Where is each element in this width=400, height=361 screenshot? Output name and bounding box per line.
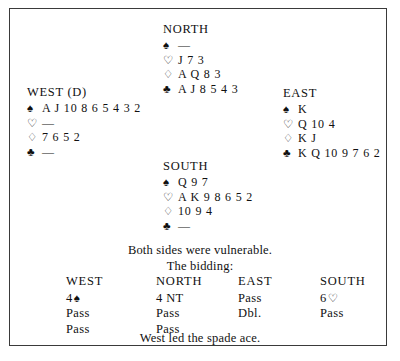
hand-west-spades: A J 10 8 6 5 4 3 2 (40, 101, 141, 116)
diamond-icon: ♢ (283, 131, 296, 146)
bid-east-suit-icon (262, 292, 263, 304)
hand-north-hearts-row: ♡ J 7 3 (163, 53, 238, 68)
bid-east: Dbl. (238, 306, 320, 322)
bidding-header-row: WEST NORTH EAST SOUTH (66, 274, 394, 291)
bid-east-level: Dbl. (238, 306, 261, 320)
diamond-icon: ♢ (163, 204, 176, 219)
hand-north-clubs: A J 8 5 4 3 (176, 82, 238, 97)
bid-east: Pass (238, 291, 320, 307)
bid-west-level: 4 (66, 291, 73, 305)
hand-south-hearts-row: ♡ A K 9 8 6 5 2 (163, 190, 253, 205)
hand-west-spades-row: ♠ A J 10 8 6 5 4 3 2 (27, 101, 141, 116)
hand-east-diamonds: K J (296, 131, 317, 146)
diamond-icon: ♢ (163, 67, 176, 82)
bid-north: Pass (156, 306, 238, 322)
bid-west: Pass (66, 306, 156, 322)
bid-east-suit-icon (261, 307, 262, 319)
hand-north-clubs-row: ♣ A J 8 5 4 3 (163, 82, 238, 97)
hand-north: NORTH ♠ — ♡ J 7 3 ♢ A Q 8 3 ♣ A J 8 5 4 … (163, 22, 238, 96)
heart-icon: ♡ (27, 116, 40, 131)
heart-icon: ♡ (327, 292, 339, 304)
hand-south-diamonds-row: ♢ 10 9 4 (163, 204, 253, 219)
hand-west-hearts-row: ♡ — (27, 116, 141, 131)
heart-icon: ♡ (163, 53, 176, 68)
spade-icon: ♠ (163, 38, 176, 53)
bridge-hand-diagram: NORTH ♠ — ♡ J 7 3 ♢ A Q 8 3 ♣ A J 8 5 4 … (0, 0, 400, 361)
heart-icon: ♡ (163, 190, 176, 205)
hand-east-spades-row: ♠ K (283, 102, 381, 117)
spade-icon: ♠ (73, 292, 81, 304)
club-icon: ♣ (283, 146, 296, 161)
vulnerability-note: Both sides were vulnerable. (0, 242, 400, 258)
hand-west-diamonds-row: ♢ 7 6 5 2 (27, 130, 141, 145)
hand-south-spades: Q 9 7 (176, 175, 209, 190)
bidding-row: 4♠ 4 NT Pass 6♡ (66, 291, 394, 307)
hand-east-clubs-row: ♣ K Q 10 9 7 6 2 (283, 146, 381, 161)
hand-north-diamonds-row: ♢ A Q 8 3 (163, 67, 238, 82)
hand-south-clubs: — (176, 219, 191, 234)
opening-lead-note: West led the spade ace. (0, 330, 400, 346)
hand-west-hearts: — (40, 116, 55, 131)
bid-south-suit-icon (344, 307, 345, 319)
bidding-table: WEST NORTH EAST SOUTH 4♠ 4 NT Pass 6♡ Pa… (66, 274, 394, 337)
hand-east-hearts: Q 10 4 (296, 117, 335, 132)
diamond-icon: ♢ (27, 130, 40, 145)
hand-west-label: WEST (D) (27, 85, 141, 100)
hand-east-clubs: K Q 10 9 7 6 2 (296, 146, 381, 161)
hand-west: WEST (D) ♠ A J 10 8 6 5 4 3 2 ♡ — ♢ 7 6 … (27, 85, 141, 159)
hand-south-diamonds: 10 9 4 (176, 204, 213, 219)
hand-south-hearts: A K 9 8 6 5 2 (176, 190, 253, 205)
hand-south: SOUTH ♠ Q 9 7 ♡ A K 9 8 6 5 2 ♢ 10 9 4 ♣… (163, 159, 253, 233)
bidding-row: Pass Pass Dbl. Pass (66, 306, 394, 322)
heart-icon: ♡ (283, 117, 296, 132)
hand-east: EAST ♠ K ♡ Q 10 4 ♢ K J ♣ K Q 10 9 7 6 2 (283, 86, 381, 160)
hand-north-hearts: J 7 3 (176, 53, 205, 68)
spade-icon: ♠ (283, 102, 296, 117)
bid-west-level: Pass (66, 306, 90, 320)
hand-north-spades-row: ♠ — (163, 38, 238, 53)
club-icon: ♣ (27, 145, 40, 160)
bid-south: Pass (320, 306, 394, 322)
club-icon: ♣ (163, 219, 176, 234)
bid-north-suit-icon (184, 292, 185, 304)
hand-west-diamonds: 7 6 5 2 (40, 130, 81, 145)
hand-east-label: EAST (283, 86, 381, 101)
bidding-header-east: EAST (238, 274, 320, 291)
hand-east-spades: K (296, 102, 307, 117)
bid-north-level: 4 NT (156, 291, 184, 305)
hand-south-label: SOUTH (163, 159, 253, 174)
spade-icon: ♠ (27, 101, 40, 116)
bidding-caption: The bidding: (0, 258, 400, 274)
hand-east-diamonds-row: ♢ K J (283, 131, 381, 146)
hand-south-spades-row: ♠ Q 9 7 (163, 175, 253, 190)
hand-south-clubs-row: ♣ — (163, 219, 253, 234)
bid-south-level: Pass (320, 306, 344, 320)
bid-north-level: Pass (156, 306, 180, 320)
club-icon: ♣ (163, 82, 176, 97)
hand-north-diamonds: A Q 8 3 (176, 67, 221, 82)
bid-west: 4♠ (66, 291, 156, 307)
bid-east-level: Pass (238, 291, 262, 305)
bid-north: 4 NT (156, 291, 238, 307)
hand-north-spades: — (176, 38, 191, 53)
bid-south: 6♡ (320, 291, 394, 307)
spade-icon: ♠ (163, 175, 176, 190)
bidding-header-north: NORTH (156, 274, 238, 291)
bid-north-suit-icon (180, 307, 181, 319)
bidding-header-west: WEST (66, 274, 156, 291)
bidding-header-south: SOUTH (320, 274, 394, 291)
hand-east-hearts-row: ♡ Q 10 4 (283, 117, 381, 132)
bid-south-level: 6 (320, 291, 327, 305)
hand-west-clubs: — (40, 145, 55, 160)
hand-north-label: NORTH (163, 22, 238, 37)
bid-west-suit-icon (90, 307, 91, 319)
hand-west-clubs-row: ♣ — (27, 145, 141, 160)
